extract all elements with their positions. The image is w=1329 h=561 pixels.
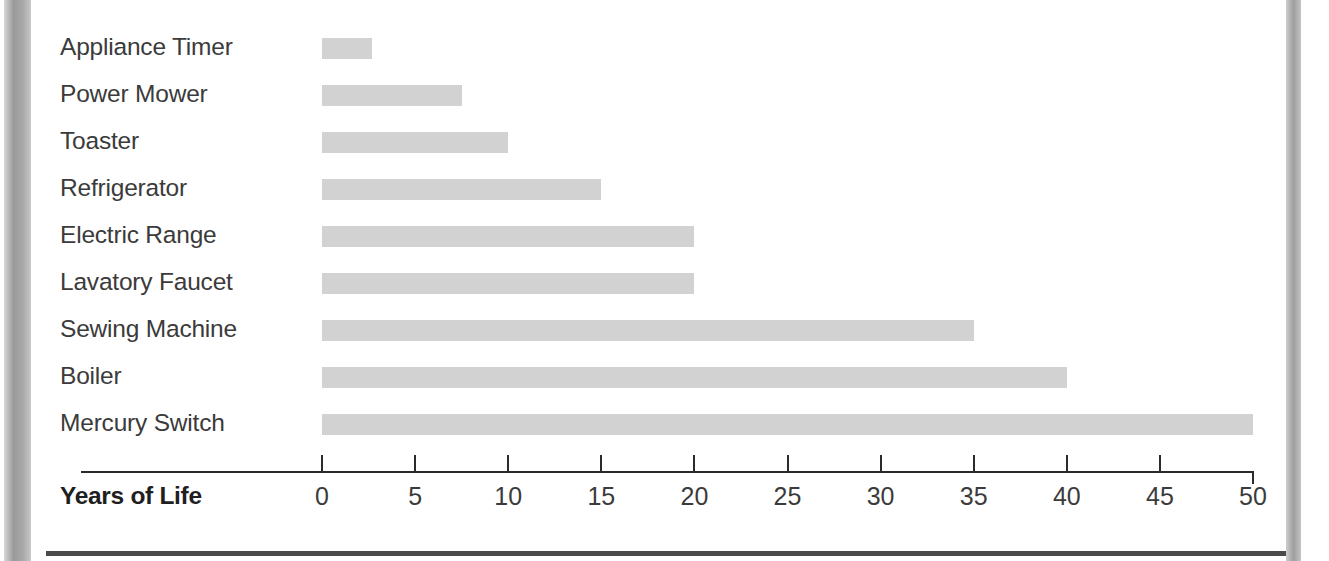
x-axis-tick-label: 40 (1037, 481, 1097, 511)
bar-row: Power Mower (0, 80, 1329, 127)
bar-row: Mercury Switch (0, 409, 1329, 456)
horizontal-bar-chart: Years of Life Appliance TimerPower Mower… (0, 0, 1329, 561)
bar (322, 38, 372, 59)
x-axis-tick-label: 5 (385, 481, 445, 511)
bar (322, 414, 1253, 435)
x-axis-tick-label: 30 (851, 481, 911, 511)
category-label: Boiler (60, 362, 276, 390)
bar-row: Appliance Timer (0, 33, 1329, 80)
x-axis-tick-label: 0 (292, 481, 352, 511)
x-axis-tick-label: 25 (758, 481, 818, 511)
x-axis-tick (1066, 455, 1068, 472)
bar-row: Refrigerator (0, 174, 1329, 221)
bar-row: Electric Range (0, 221, 1329, 268)
category-label: Mercury Switch (60, 409, 276, 437)
x-axis-tick (600, 455, 602, 472)
x-axis-tick-label: 35 (944, 481, 1004, 511)
bar-row: Toaster (0, 127, 1329, 174)
category-label: Appliance Timer (60, 33, 276, 61)
bar (322, 132, 508, 153)
x-axis-tick (507, 455, 509, 472)
bar (322, 179, 601, 200)
x-axis-tick-label: 10 (478, 481, 538, 511)
x-axis-tick (321, 455, 323, 472)
x-axis-tick (693, 455, 695, 472)
x-axis-tick (1159, 455, 1161, 472)
category-label: Lavatory Faucet (60, 268, 276, 296)
category-label: Sewing Machine (60, 315, 276, 343)
bar (322, 226, 694, 247)
bar (322, 367, 1067, 388)
bar (322, 320, 974, 341)
bar-row: Lavatory Faucet (0, 268, 1329, 315)
category-label: Refrigerator (60, 174, 276, 202)
x-axis-tick (880, 455, 882, 472)
x-axis-tick (787, 455, 789, 472)
bar (322, 273, 694, 294)
x-axis-tick-label: 20 (664, 481, 724, 511)
bar-row: Boiler (0, 362, 1329, 409)
bar (322, 85, 462, 106)
x-axis-title: Years of Life (60, 481, 202, 511)
x-axis-tick-label: 45 (1130, 481, 1190, 511)
x-axis-tick (414, 455, 416, 472)
x-axis-line (81, 471, 1254, 473)
bar-row: Sewing Machine (0, 315, 1329, 362)
category-label: Power Mower (60, 80, 276, 108)
category-label: Toaster (60, 127, 276, 155)
x-axis-tick (973, 455, 975, 472)
x-axis-tick-label: 15 (571, 481, 631, 511)
x-axis-tick-label: 50 (1223, 481, 1283, 511)
category-label: Electric Range (60, 221, 276, 249)
